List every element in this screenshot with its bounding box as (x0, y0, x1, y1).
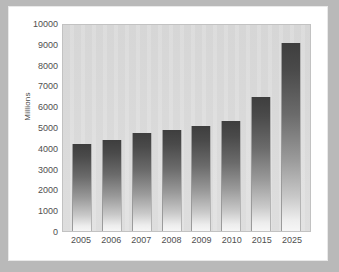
bar-2005[interactable] (72, 144, 92, 231)
chart-card: Millions 10000 9000 8000 7000 6000 5000 … (9, 7, 327, 260)
bar-2015[interactable] (251, 97, 271, 231)
x-tick-label: 2005 (66, 235, 96, 253)
bar-slot (127, 25, 157, 231)
bar-2006[interactable] (102, 140, 122, 231)
y-tick-label: 7000 (14, 81, 58, 91)
plot-area (62, 24, 311, 232)
bar-chart-figure: Millions 10000 9000 8000 7000 6000 5000 … (9, 7, 327, 260)
bar-2007[interactable] (132, 133, 152, 231)
y-tick-label: 9000 (14, 40, 58, 50)
y-tick-label: 6000 (14, 102, 58, 112)
x-axis-tick-labels: 2005 2006 2007 2008 2009 2010 2015 2025 (62, 235, 311, 253)
x-tick-label: 2009 (187, 235, 217, 253)
bar-slot (157, 25, 187, 231)
x-tick-label: 2006 (96, 235, 126, 253)
y-tick-label: 2000 (14, 185, 58, 195)
x-tick-label: 2008 (156, 235, 186, 253)
y-tick-label: 8000 (14, 61, 58, 71)
y-tick-label: 10000 (14, 19, 58, 29)
y-tick-label: 0 (14, 227, 58, 237)
bar-2009[interactable] (191, 126, 211, 231)
bar-slot (187, 25, 217, 231)
x-tick-label: 2015 (247, 235, 277, 253)
bar-slot (246, 25, 276, 231)
bar-slot (97, 25, 127, 231)
x-tick-label: 2010 (217, 235, 247, 253)
y-tick-label: 4000 (14, 144, 58, 154)
y-axis-tick-labels: 10000 9000 8000 7000 6000 5000 4000 3000… (9, 7, 58, 260)
bar-2008[interactable] (162, 130, 182, 231)
bar-slot (67, 25, 97, 231)
bar-slot (276, 25, 306, 231)
bar-slot (216, 25, 246, 231)
x-tick-label: 2007 (126, 235, 156, 253)
x-tick-label: 2025 (277, 235, 307, 253)
bar-2025[interactable] (281, 43, 301, 231)
y-tick-label: 1000 (14, 206, 58, 216)
y-tick-label: 5000 (14, 123, 58, 133)
y-tick-label: 3000 (14, 165, 58, 175)
screenshot-root: Millions 10000 9000 8000 7000 6000 5000 … (0, 0, 339, 272)
bar-series (63, 25, 310, 231)
bar-2010[interactable] (221, 121, 241, 231)
